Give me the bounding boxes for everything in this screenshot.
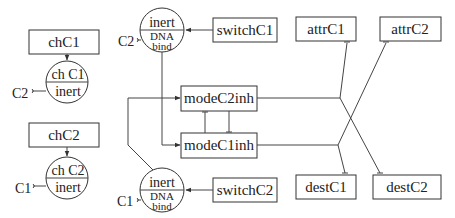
modeC2inh-inhibits-attrC1	[257, 43, 347, 98]
switchC2-node-group: inert DNA bind C1	[117, 168, 184, 212]
modeC1inh-inhibits-modeC2inh	[202, 112, 208, 133]
modeC1inh-inhibits-attrC2	[257, 43, 386, 145]
chC1-node-top: ch C1	[51, 67, 84, 82]
modeC1inh-label: modeC1inh	[184, 137, 254, 153]
switchC2-node-top: inert	[149, 175, 175, 190]
switchC2-input-connector	[137, 198, 141, 202]
modeC1inh-inhibits-destC1	[338, 145, 345, 173]
chC2-group: chC2 ch C2 inert C1	[15, 123, 99, 199]
destC1-label: destC1	[305, 179, 347, 195]
attrC1-label: attrC1	[307, 21, 345, 37]
switchC2-node-bottom: bind	[152, 200, 172, 212]
switchC1-node-group: inert DNA bind C2	[118, 8, 184, 52]
switchC1-node-top: inert	[149, 15, 175, 30]
switchC1-input-label: C2	[118, 34, 134, 49]
switchC2-input-label: C1	[117, 194, 133, 209]
switchC1-input-connector	[137, 38, 141, 42]
chC1-input-connector	[32, 89, 46, 93]
switchC1-label: switchC1	[217, 22, 274, 38]
modeC2inh-label: modeC2inh	[184, 90, 254, 106]
chC2-label: chC2	[48, 127, 80, 143]
chC2-input-label: C1	[15, 181, 31, 196]
switchC2-label: switchC2	[217, 182, 274, 198]
destC2-label: destC2	[386, 179, 428, 195]
modeC2inh-inhibits-modeC1inh	[226, 111, 232, 132]
chC2-node-top: ch C2	[51, 163, 84, 178]
chC2-input-connector	[33, 184, 46, 188]
attrC2-label: attrC2	[391, 21, 429, 37]
regulatory-network-diagram: chC1 ch C1 inert C2 chC2 ch C2 inert C1 …	[0, 0, 455, 218]
chC1-input-label: C2	[12, 86, 28, 101]
chC1-group: chC1 ch C1 inert C2	[12, 30, 99, 103]
chC1-label: chC1	[48, 34, 80, 50]
switchC1-node-bottom: bind	[152, 40, 172, 52]
chC1-node-bottom: inert	[55, 84, 81, 99]
chC2-node-bottom: inert	[55, 180, 81, 195]
modeC2inh-inhibits-destC2	[340, 98, 380, 173]
switchC2-node-to-modeC2inh	[128, 98, 180, 170]
